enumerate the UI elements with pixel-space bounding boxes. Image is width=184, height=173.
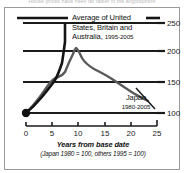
x-tick-label-20: 20 bbox=[123, 129, 139, 138]
y-tick-label-150: 150 bbox=[167, 78, 180, 87]
legend-average-line1: Average of United bbox=[72, 13, 146, 23]
y-tick-label-100: 100 bbox=[167, 109, 180, 118]
x-axis bbox=[26, 120, 157, 126]
figure-top-caption: House prices have risen far faster in th… bbox=[0, 0, 184, 5]
legend-average-years: 1995-2005 bbox=[105, 33, 134, 40]
legend-label-average: Average of United States, Britain and Au… bbox=[72, 13, 146, 42]
legend-average-line3: Australia, bbox=[72, 32, 103, 41]
x-axis-title: Years from base date bbox=[5, 140, 181, 149]
origin-marker-dot bbox=[22, 109, 30, 117]
x-axis-note: (Japan 1980 = 100, others 1995 = 100) bbox=[5, 150, 181, 157]
legend-average-line3-wrap: Australia, 1995-2005 bbox=[72, 32, 146, 42]
x-tick-label-5: 5 bbox=[44, 129, 60, 138]
legend-average-line2: States, Britain and bbox=[72, 23, 146, 33]
legend-label-japan: Japan 1980-2005 bbox=[109, 94, 163, 111]
y-tick-label-250: 250 bbox=[167, 19, 180, 28]
y-tick-label-200: 200 bbox=[167, 47, 180, 56]
x-tick-label-25: 25 bbox=[149, 129, 165, 138]
x-tick-label-10: 10 bbox=[70, 129, 86, 138]
x-tick-label-15: 15 bbox=[97, 129, 113, 138]
x-tick-label-0: 0 bbox=[18, 129, 34, 138]
legend-japan-name: Japan bbox=[109, 94, 163, 103]
chart-figure: 250 200 150 100 0 5 10 15 20 25 Average … bbox=[4, 7, 180, 170]
legend-japan-years: 1980-2005 bbox=[109, 103, 163, 111]
series-line-average bbox=[26, 24, 65, 113]
